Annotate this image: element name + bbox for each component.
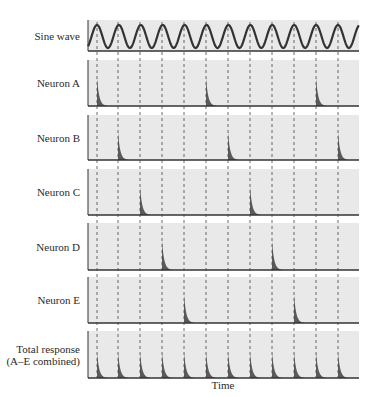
panel-labels: Sine waveNeuron ANeuron BNeuron CNeuron … <box>6 30 80 368</box>
panel-label: Neuron E <box>38 294 81 306</box>
panel-label: (A–E combined) <box>6 355 80 368</box>
x-axis-label: Time <box>212 379 235 391</box>
panel-sine-wave <box>88 20 359 51</box>
panel-label: Neuron D <box>36 241 80 253</box>
panel-neuron-d <box>88 223 359 270</box>
panel-label: Total response <box>16 343 80 355</box>
panel-neuron-c <box>88 169 359 215</box>
panel-neuron-b <box>88 115 359 160</box>
panel-label: Neuron A <box>37 77 80 89</box>
panel-total-response <box>88 331 359 378</box>
volley-principle-figure: Sine waveNeuron ANeuron BNeuron CNeuron … <box>0 0 378 397</box>
panel-label: Neuron B <box>37 132 80 144</box>
panel-neuron-a <box>88 60 359 106</box>
panels <box>88 20 359 378</box>
panel-label: Neuron C <box>37 186 80 198</box>
panel-neuron-e <box>88 277 359 323</box>
panel-label: Sine wave <box>34 30 80 42</box>
